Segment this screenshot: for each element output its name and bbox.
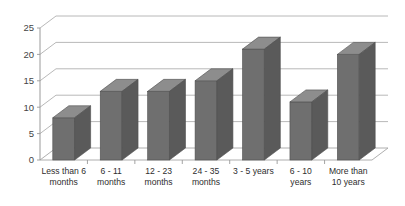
bar xyxy=(53,106,91,160)
bar-front-face xyxy=(100,91,122,160)
x-axis-category-label: 6 - 11 xyxy=(100,166,122,176)
gridline-riser xyxy=(40,69,56,81)
x-axis-category-label: 12 - 23 xyxy=(145,166,172,176)
x-axis-category-label: 3 - 5 years xyxy=(233,166,274,176)
x-axis-category-label: months xyxy=(192,177,220,187)
bar-front-face xyxy=(195,81,217,160)
y-axis-tick-label: 25 xyxy=(23,22,34,33)
x-axis-category-label: years xyxy=(290,177,311,187)
axis-floor-right-edge xyxy=(372,148,388,160)
bar xyxy=(243,37,281,160)
y-axis-tick-label: 0 xyxy=(29,154,34,165)
y-axis-tick-label: 15 xyxy=(23,75,34,86)
x-axis-category-label: More than xyxy=(329,166,368,176)
x-axis-category-label: months xyxy=(97,177,125,187)
gridline-riser xyxy=(40,16,56,28)
bar-side-face xyxy=(122,79,138,160)
bar-front-face xyxy=(337,54,359,160)
bar xyxy=(337,42,375,160)
y-axis-tick-labels: 0510152025 xyxy=(23,22,34,165)
y-axis-tick-label: 20 xyxy=(23,49,34,60)
chart-canvas: 0510152025 Less than 6months6 - 11months… xyxy=(0,0,405,206)
bar-front-face xyxy=(243,49,265,160)
bar-series xyxy=(53,37,375,160)
bar-chart: 0510152025 Less than 6months6 - 11months… xyxy=(0,0,405,206)
bar xyxy=(148,79,186,160)
x-axis-category-label: months xyxy=(50,177,78,187)
bar-front-face xyxy=(290,102,312,160)
x-axis-category-label: 10 years xyxy=(332,177,365,187)
x-axis-category-label: 6 - 10 xyxy=(290,166,312,176)
y-axis-tick-label: 10 xyxy=(23,102,34,113)
gridline-riser xyxy=(40,95,56,107)
x-axis-category-label: Less than 6 xyxy=(41,166,86,176)
bar xyxy=(195,69,233,160)
bar xyxy=(290,90,328,160)
bar-side-face xyxy=(217,69,233,160)
bar-side-face xyxy=(312,90,328,160)
bar-side-face xyxy=(359,42,375,160)
y-axis-tick-label: 5 xyxy=(29,128,34,139)
bar-front-face xyxy=(53,118,75,160)
bar xyxy=(100,79,138,160)
bar-side-face xyxy=(264,37,280,160)
x-axis-category-labels: Less than 6months6 - 11months12 - 23mont… xyxy=(41,166,367,187)
bar-front-face xyxy=(148,91,170,160)
gridline-riser xyxy=(40,42,56,54)
x-axis-category-label: months xyxy=(144,177,172,187)
bar-side-face xyxy=(169,79,185,160)
x-axis-category-label: 24 - 35 xyxy=(193,166,220,176)
